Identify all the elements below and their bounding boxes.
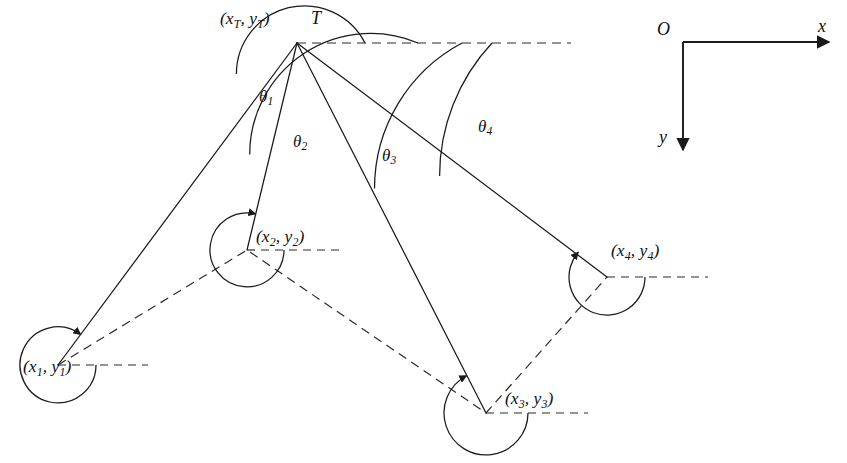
waypoint-reference-lines-group: [58, 250, 708, 413]
p4-paren-close: ): [654, 240, 660, 260]
apex-y-subscript: T: [257, 17, 264, 31]
ray-T-to-p4: [297, 43, 607, 277]
ray-T-to-p3: [297, 43, 486, 413]
diagram-vector-layer: [0, 0, 847, 463]
rays-from-apex-group: [58, 43, 607, 413]
theta1-label: θ1: [259, 88, 273, 108]
waypoint-angle-arcs-group: [20, 213, 645, 455]
p4-comma: ,: [631, 240, 635, 260]
apex-paren-close: ): [264, 8, 270, 28]
p3-comma: ,: [525, 388, 529, 408]
apex-label-T: T: [311, 9, 321, 27]
apex-coordinate-label: (xT, yT): [220, 10, 270, 30]
theta4-label: θ4: [478, 118, 492, 138]
p4-x-symbol: x: [617, 240, 625, 260]
apex-comma: ,: [240, 8, 244, 28]
theta3-subscript: 3: [390, 154, 396, 167]
p1-paren-close: ): [66, 356, 72, 376]
theta1-subscript: 1: [267, 95, 273, 108]
axis-origin-label: O: [657, 20, 670, 38]
p3-coordinate-label: (x3, y3): [505, 390, 553, 410]
p1-coordinate-label: (x1, y1): [23, 358, 71, 378]
p2-x-symbol: x: [262, 226, 270, 246]
theta4-subscript: 4: [486, 125, 492, 138]
apex-x-symbol: x: [226, 8, 234, 28]
p3-x-symbol: x: [511, 388, 519, 408]
p3-paren-close: ): [548, 388, 554, 408]
axis-y-label: y: [659, 128, 667, 146]
ray-T-to-p2: [247, 43, 297, 250]
p4-coordinate-label: (x4, y4): [611, 242, 659, 262]
p2-paren-close: ): [299, 226, 305, 246]
p1-x-symbol: x: [29, 356, 37, 376]
theta3-label: θ3: [382, 147, 396, 167]
diagram-canvas: (xT, yT) T θ1 θ2 θ3 θ4 (x1, y1) (x2, y2)…: [0, 0, 847, 463]
p1-comma: ,: [43, 356, 47, 376]
p2-coordinate-label: (x2, y2): [256, 228, 304, 248]
theta2-label: θ2: [293, 133, 307, 153]
axis-x-label: x: [818, 17, 826, 35]
apex-y-symbol: y: [249, 8, 257, 28]
p2-comma: ,: [276, 226, 280, 246]
coordinate-frame-group: [683, 42, 829, 150]
theta2-subscript: 2: [301, 140, 307, 153]
